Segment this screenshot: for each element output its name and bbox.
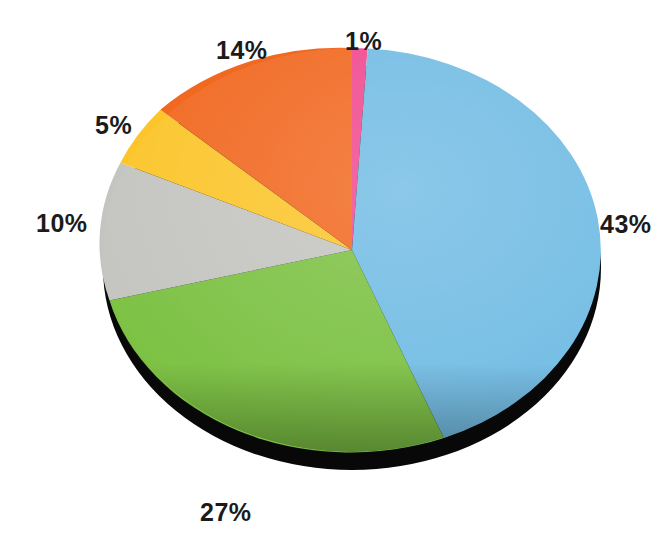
pie-label-gray: 10% <box>36 211 88 236</box>
pie-label-yellow: 5% <box>95 113 132 138</box>
pie-label-orange: 14% <box>216 38 268 63</box>
pie-surface-shading <box>103 48 601 452</box>
pie-label-blue: 43% <box>600 212 652 237</box>
pie-chart-figure: 43% 27% 10% 5% 14% 1% <box>0 0 670 545</box>
pie-label-pink: 1% <box>345 29 382 54</box>
pie-chart-graphic <box>0 0 670 545</box>
pie-label-green: 27% <box>200 500 252 525</box>
